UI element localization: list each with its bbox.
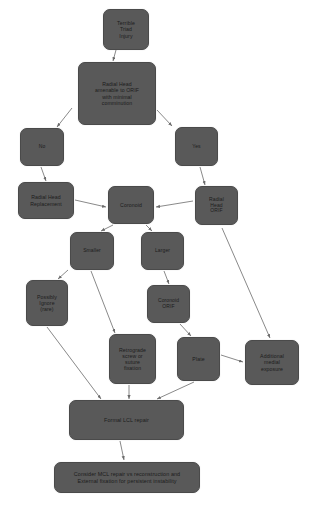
node-smaller: Smaller [70,232,114,270]
node-label: Consider MCL repair vs reconstruction an… [58,471,196,484]
node-label: Possibly Ignore (rare) [30,294,64,312]
edge-smaller-to-retrograde-screw-suture-fixation [91,271,115,333]
node-radial-head-replacement: Radial Head Replacement [18,182,74,219]
edge-coronoid-to-smaller [101,225,113,231]
edge-radial-head-orif-to-coronoid [156,201,193,207]
node-label: Additional medial exposure [249,353,295,371]
edge-radial-head-replacement-to-coronoid [75,200,106,207]
edge-coronoid-orif-to-plate [180,324,191,336]
edge-coronoid-to-larger [146,225,152,231]
node-label: Retrograde screw or suture fixation [113,347,152,372]
edge-radial-head-amenable-to-yes [157,110,172,126]
edge-possibly-ignore-rare-to-formal-lcl-repair [47,327,101,399]
edge-radial-head-amenable-to-no [57,108,72,127]
node-coronoid-orif: Coronoid ORIF [147,285,190,323]
edge-larger-to-coronoid-orif [164,271,169,284]
edge-yes-to-radial-head-orif [200,167,205,185]
node-label: Radial Head amenable to ORIF with minima… [82,81,152,106]
node-additional-medial-exposure: Additional medial exposure [245,340,299,385]
node-coronoid: Coronoid [108,186,154,224]
edge-formal-lcl-repair-to-consider-mcl-repair [120,441,124,460]
node-terrible-triad-injury: Terrible Triad Injury [103,9,149,50]
node-label: Formal LCL repair [73,417,180,423]
node-no: No [20,128,64,166]
node-radial-head-orif: Radial Head ORIF [195,186,238,225]
node-label: Coronoid ORIF [151,298,186,310]
node-formal-lcl-repair: Formal LCL repair [69,400,184,440]
node-plate: Plate [177,337,220,381]
flowchart-canvas: Terrible Triad InjuryRadial Head amenabl… [0,0,321,511]
node-label: Smaller [74,248,110,254]
node-label: Radial Head Replacement [22,194,70,206]
edge-radial-head-orif-to-additional-medial-exposure [222,228,270,338]
node-label: Larger [145,248,180,254]
node-label: Terrible Triad Injury [107,20,145,38]
node-label: Yes [179,144,214,150]
node-yes: Yes [175,127,218,166]
node-consider-mcl-repair: Consider MCL repair vs reconstruction an… [54,462,200,493]
node-possibly-ignore-rare: Possibly Ignore (rare) [26,280,68,326]
node-larger: Larger [141,232,184,270]
edge-terrible-triad-injury-to-radial-head-amenable [113,50,116,61]
node-label: No [24,144,60,150]
edge-no-to-radial-head-replacement [41,167,46,181]
node-label: Radial Head ORIF [199,197,234,215]
node-label: Plate [181,356,216,362]
node-radial-head-amenable: Radial Head amenable to ORIF with minima… [78,62,156,125]
node-label: Coronoid [112,202,150,208]
edge-smaller-to-possibly-ignore-rare [58,270,68,279]
edge-plate-to-formal-lcl-repair [157,382,194,399]
node-retrograde-screw-suture-fixation: Retrograde screw or suture fixation [109,334,156,384]
edge-plate-to-additional-medial-exposure [221,355,243,362]
